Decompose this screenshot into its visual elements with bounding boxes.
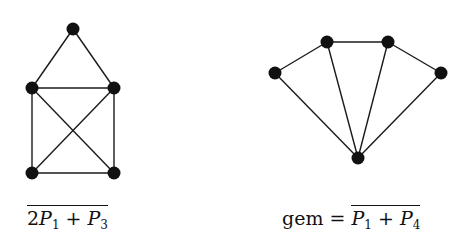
vertex-top-right (382, 36, 395, 49)
edge-far-left-top-left (275, 42, 327, 73)
edge-top-mid-right (73, 29, 114, 88)
edge-top-mid-left (32, 29, 73, 88)
graph-2p1-p3-complement (26, 23, 121, 180)
subscript: 1 (52, 218, 60, 232)
gem-prefix: gem = (282, 205, 351, 228)
vertex-top-left (321, 36, 334, 49)
subscript: 4 (413, 218, 421, 232)
plus-operator: + (60, 207, 88, 229)
vertex-mid-left (26, 82, 39, 95)
edge-far-right-bottom (358, 73, 441, 158)
edge-far-left-bottom (275, 73, 358, 158)
vertex-mid-right (108, 82, 121, 95)
label-left: 2P1 + P3 (27, 205, 108, 231)
vertex-bottom (352, 152, 365, 165)
overlined-expression-right: P1 + P4 (351, 205, 420, 231)
label-right: gem = P1 + P4 (282, 205, 420, 231)
term-p: P (39, 207, 52, 229)
vertex-far-left (269, 67, 282, 80)
coefficient: 2 (27, 207, 39, 229)
term-p: P (400, 207, 413, 229)
edge-top-left-bottom (327, 42, 358, 158)
vertex-top (67, 23, 80, 36)
vertex-far-right (435, 67, 448, 80)
overlined-expression-left: 2P1 + P3 (27, 205, 108, 231)
vertex-bottom-left (26, 167, 39, 180)
edge-top-right-far-right (388, 42, 441, 73)
term-p: P (88, 207, 101, 229)
vertex-bottom-right (108, 167, 121, 180)
plus-operator: + (372, 207, 400, 229)
edge-top-right-bottom (358, 42, 388, 158)
graph-gem (269, 36, 448, 165)
subscript: 3 (100, 218, 108, 232)
term-p: P (351, 207, 364, 229)
subscript: 1 (364, 218, 372, 232)
